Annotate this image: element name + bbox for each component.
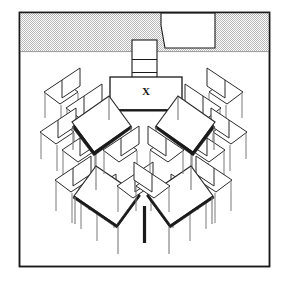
door-opening: [161, 13, 215, 48]
whiteboard-panel: [132, 40, 157, 78]
instructor-x-marker: X: [142, 85, 150, 97]
diagram-canvas: X: [0, 0, 287, 288]
classroom-layout-drawing: X: [0, 0, 287, 288]
